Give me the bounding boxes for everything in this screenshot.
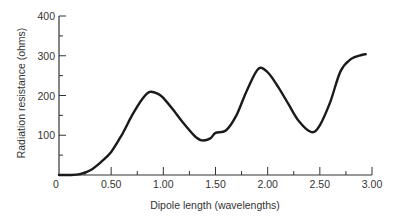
y-tick-label: 300 [37, 50, 55, 62]
x-tick-label: 1.50 [205, 178, 226, 190]
y-axis-label: Radiation resistance (ohms) [15, 28, 27, 159]
radiation-resistance-chart: 1002003004000.501.001.502.002.503.00 0 D… [0, 0, 399, 219]
x-tick-label: 2.50 [310, 178, 331, 190]
y-tick-label: 400 [37, 10, 55, 22]
x-tick-label: 2.00 [257, 178, 278, 190]
y-ticks [59, 16, 66, 155]
x-tick-label: 3.00 [362, 178, 383, 190]
x-ticks [85, 167, 372, 175]
y-tick-label: 200 [37, 90, 55, 102]
axes [59, 16, 372, 175]
x-axis-label: Dipole length (wavelengths) [150, 199, 280, 211]
radiation-resistance-curve [59, 54, 366, 175]
x-tick-label: 1.00 [153, 178, 174, 190]
x-tick-label: 0.50 [101, 178, 122, 190]
x-origin-label: 0 [53, 178, 59, 190]
y-tick-label: 100 [37, 129, 55, 141]
